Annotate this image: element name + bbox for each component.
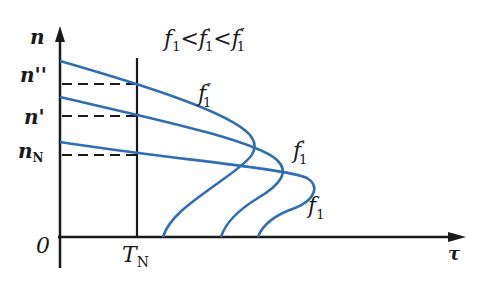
curve-label-f1: f1 <box>306 193 324 222</box>
y-tick-n-rated: nN <box>18 139 44 165</box>
x-axis-label: τ <box>448 243 461 264</box>
torque-speed-diagram: n τ 0 n'' n' nN TN f1<f′1<f″1 f″1 f′1 f1 <box>0 0 482 293</box>
curve-label-f1-double-prime: f″1 <box>196 81 211 110</box>
curve-f1 <box>60 142 314 237</box>
y-axis-arrow-icon <box>55 26 65 42</box>
y-tick-n-prime: n' <box>24 105 45 129</box>
diagram-title: f1<f′1<f″1 <box>162 26 245 54</box>
curve-f1-double-prime <box>60 61 255 237</box>
x-tick-rated-torque: TN <box>122 242 149 270</box>
x-axis-arrow-icon <box>448 232 466 242</box>
y-tick-n-double-prime: n'' <box>20 63 47 87</box>
origin-label: 0 <box>36 233 50 258</box>
curve-label-f1-prime: f′1 <box>291 138 307 167</box>
y-axis-label: n <box>30 25 45 49</box>
